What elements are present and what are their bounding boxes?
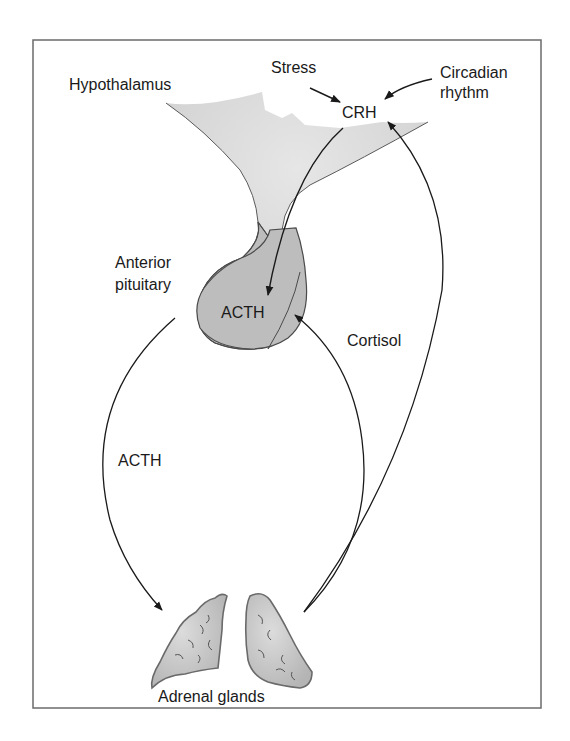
- label-acth-pituitary: ACTH: [221, 304, 265, 321]
- label-adrenal-glands: Adrenal glands: [158, 688, 265, 705]
- label-rhythm: rhythm: [440, 84, 489, 101]
- pituitary-outline: [197, 228, 307, 349]
- adrenal-gland-left: [152, 594, 227, 688]
- hpa-axis-diagram: Hypothalamus Stress Circadian rhythm CRH…: [0, 0, 570, 741]
- label-circadian: Circadian: [440, 64, 508, 81]
- label-cortisol: Cortisol: [347, 332, 401, 349]
- label-stress: Stress: [271, 59, 316, 76]
- label-hypothalamus: Hypothalamus: [69, 76, 171, 93]
- label-acth-path: ACTH: [118, 452, 162, 469]
- arrow-cortisol-to-pituitary: [295, 315, 364, 612]
- label-crh: CRH: [342, 104, 377, 121]
- arrow-stress-to-crh: [310, 88, 340, 102]
- arrow-circadian-to-crh: [385, 79, 432, 99]
- label-anterior: Anterior: [115, 254, 172, 271]
- adrenal-gland-right: [246, 594, 312, 688]
- arrow-cortisol-to-crh: [304, 122, 443, 612]
- label-pituitary: pituitary: [115, 276, 171, 293]
- diagram-canvas: Hypothalamus Stress Circadian rhythm CRH…: [0, 0, 570, 741]
